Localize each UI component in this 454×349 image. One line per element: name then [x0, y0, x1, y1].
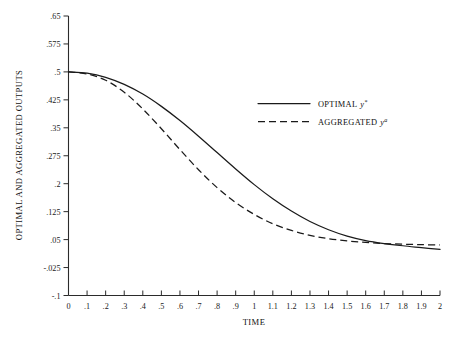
- x-tick-label: 1.1: [268, 302, 278, 311]
- x-tick-label: .6: [177, 302, 183, 311]
- x-tick-label: 2: [438, 302, 442, 311]
- legend: OPTIMALy* AGGREGATEDya: [258, 98, 388, 127]
- x-tick-label: .8: [214, 302, 220, 311]
- x-tick-label: 1.4: [323, 302, 333, 311]
- series-line-optimal: [69, 72, 441, 250]
- x-tick-label: 1: [252, 302, 256, 311]
- y-tick-label: .5: [54, 68, 60, 77]
- x-axis-title: TIME: [243, 317, 266, 327]
- x-tick-label: .5: [158, 302, 164, 311]
- x-tick-label: 1.6: [361, 302, 371, 311]
- x-tick-label: .9: [233, 302, 239, 311]
- y-tick-label: .65: [50, 12, 60, 21]
- y-axis-title: OPTIMAL AND AGGREGATED OUTPUTS: [14, 70, 24, 240]
- legend-label-aggregated: AGGREGATEDya: [318, 116, 388, 127]
- series-line-aggregated: [69, 72, 441, 245]
- chart-figure: .65.575.5.425.35.275.2.125.05-.025-.1 OP…: [0, 0, 454, 349]
- y-tick-label: .575: [46, 40, 60, 49]
- x-tick-group: 0.1.2.3.4.5.6.7.8.911.11.21.31.41.51.61.…: [66, 291, 442, 311]
- x-tick-label: 0: [66, 302, 70, 311]
- x-tick-label: 1.3: [305, 302, 315, 311]
- x-tick-label: 1.9: [416, 302, 426, 311]
- x-tick-label: 1.7: [379, 302, 389, 311]
- x-tick-label: .2: [103, 302, 109, 311]
- series-group: [69, 72, 441, 250]
- x-tick-label: .7: [195, 302, 201, 311]
- y-tick-label: -.1: [52, 292, 61, 301]
- x-tick-label: 1.5: [342, 302, 352, 311]
- x-tick-label: 1.8: [398, 302, 408, 311]
- x-tick-label: .4: [140, 302, 146, 311]
- y-axis-group: .65.575.5.425.35.275.2.125.05-.025-.1 OP…: [14, 12, 69, 301]
- x-tick-label: .1: [84, 302, 90, 311]
- y-tick-label: .125: [46, 208, 60, 217]
- x-tick-label: .3: [121, 302, 127, 311]
- x-axis-group: 0.1.2.3.4.5.6.7.8.911.11.21.31.41.51.61.…: [66, 291, 442, 328]
- y-tick-label: .425: [46, 96, 60, 105]
- y-tick-group: .65.575.5.425.35.275.2.125.05-.025-.1: [43, 12, 68, 301]
- y-tick-label: -.025: [43, 264, 60, 273]
- y-tick-label: .2: [54, 180, 60, 189]
- y-tick-label: .35: [50, 124, 60, 133]
- y-tick-label: .275: [46, 152, 60, 161]
- y-tick-label: .05: [50, 236, 60, 245]
- chart-plot-area: .65.575.5.425.35.275.2.125.05-.025-.1 OP…: [0, 0, 454, 349]
- legend-label-optimal: OPTIMALy*: [318, 98, 368, 109]
- x-tick-label: 1.2: [286, 302, 296, 311]
